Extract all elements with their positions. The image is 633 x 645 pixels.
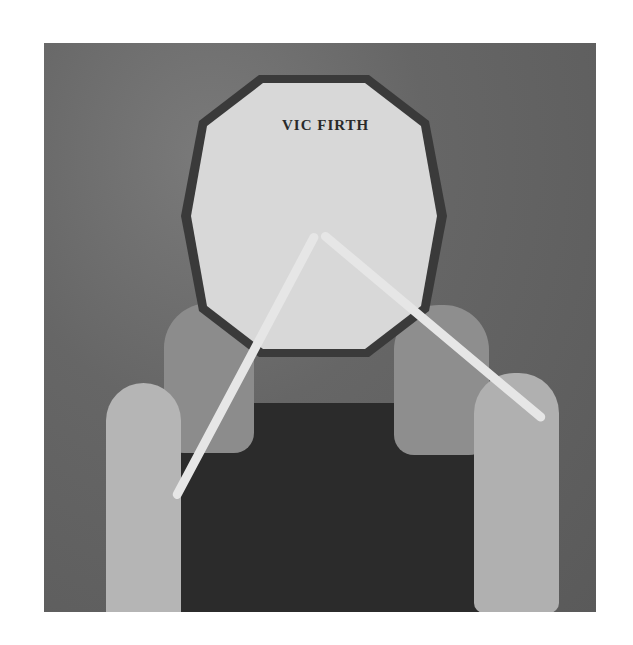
pad-brand-text: VIC FIRTH xyxy=(282,117,369,134)
photo: VIC FIRTH xyxy=(44,43,596,612)
left-hand xyxy=(106,383,181,612)
practice-pad xyxy=(179,71,449,361)
right-hand xyxy=(474,373,559,612)
